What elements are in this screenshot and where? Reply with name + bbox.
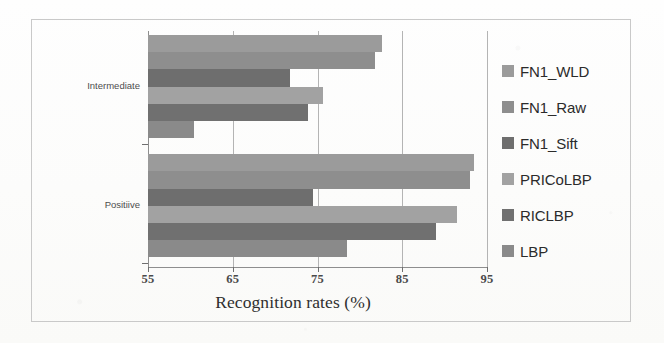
bar: [148, 69, 290, 86]
legend-swatch-icon: [502, 209, 514, 221]
legend-item-label: FN1_WLD: [520, 63, 589, 80]
bar: [148, 35, 382, 52]
legend-swatch-icon: [502, 101, 514, 113]
legend-swatch-icon: [502, 245, 514, 257]
x-tick-label: 65: [226, 272, 239, 287]
legend-swatch-icon: [502, 137, 514, 149]
legend-item[interactable]: FN1_WLD: [502, 53, 632, 89]
y-category-label: Intermediate: [40, 80, 140, 91]
legend-swatch-icon: [502, 65, 514, 77]
bar: [148, 87, 323, 104]
legend-item-label: RICLBP: [520, 207, 574, 224]
legend-item[interactable]: PRICoLBP: [502, 161, 632, 197]
gridline: [487, 31, 488, 268]
legend-item[interactable]: FN1_Raw: [502, 89, 632, 125]
legend-item-label: FN1_Sift: [520, 135, 578, 152]
legend-swatch-icon: [502, 173, 514, 185]
chart-legend: FN1_WLDFN1_RawFN1_SiftPRICoLBPRICLBPLBP: [502, 53, 632, 269]
legend-item-label: PRICoLBP: [520, 171, 592, 188]
bar: [148, 52, 375, 69]
legend-item[interactable]: RICLBP: [502, 197, 632, 233]
legend-item-label: LBP: [520, 243, 548, 260]
bar: [148, 206, 457, 223]
bar: [148, 104, 308, 121]
x-tick-label: 85: [396, 272, 409, 287]
bar: [148, 171, 470, 188]
bar: [148, 223, 436, 240]
y-category-tick: [142, 144, 148, 145]
bar: [148, 240, 347, 257]
x-axis-title: Recognition rates (%): [128, 292, 458, 313]
y-category-tick: [142, 263, 148, 264]
legend-item[interactable]: LBP: [502, 233, 632, 269]
bar: [148, 121, 194, 138]
bar: [148, 189, 313, 206]
x-tick-label: 95: [481, 272, 494, 287]
chart-screenshot: 5565758595 IntermediatePositiive Recogni…: [0, 0, 664, 343]
y-category-label: Positiive: [40, 199, 140, 210]
bar: [148, 154, 474, 171]
legend-item[interactable]: FN1_Sift: [502, 125, 632, 161]
x-tick-label: 75: [311, 272, 324, 287]
legend-item-label: FN1_Raw: [520, 99, 586, 116]
x-tick-label: 55: [142, 272, 155, 287]
